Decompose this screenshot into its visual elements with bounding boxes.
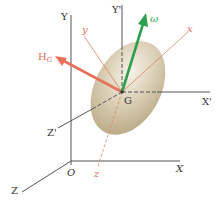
- label-G: G: [124, 95, 132, 106]
- Zp-axis-outer: [58, 108, 94, 128]
- label-O: O: [67, 167, 75, 178]
- label-Yp: Y': [111, 4, 121, 15]
- label-Xp: X': [202, 96, 212, 107]
- label-omega: ω: [150, 13, 158, 24]
- label-H: H: [38, 51, 47, 62]
- rigid-body-diagram: Y Y' X X' Z Z' O G x y z ω HG: [0, 0, 223, 200]
- Z-axis: [22, 161, 71, 192]
- label-Zp: Z': [47, 127, 57, 138]
- label-z-body: z: [93, 168, 100, 179]
- label-HG: HG: [38, 51, 53, 64]
- mass-center-point: [120, 90, 123, 93]
- label-Y: Y: [60, 11, 68, 22]
- label-Z: Z: [11, 185, 18, 196]
- label-x-body: x: [187, 23, 193, 34]
- label-y-body: y: [81, 24, 88, 35]
- label-X: X: [175, 163, 184, 174]
- label-H-subscript: G: [47, 56, 53, 64]
